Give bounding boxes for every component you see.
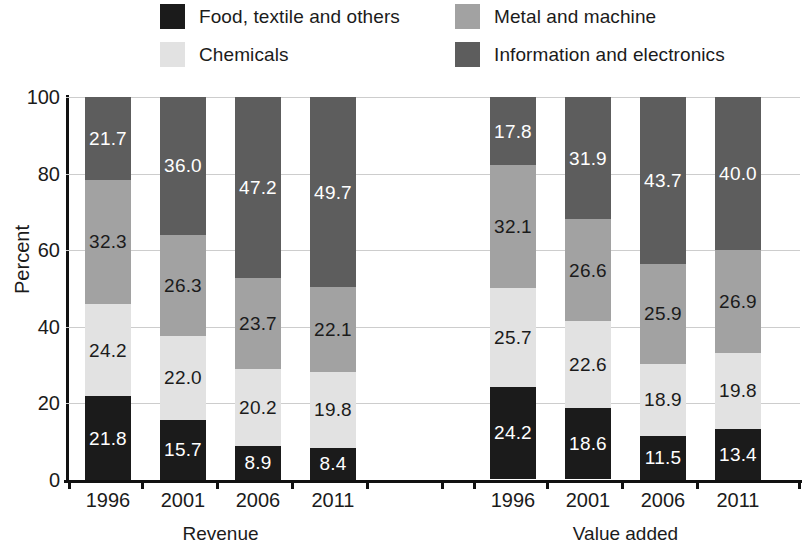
bar-segment: 25.7 [490, 288, 536, 386]
bar-segment-value: 21.7 [89, 129, 127, 148]
bar-segment-value: 23.7 [239, 314, 277, 333]
y-tick-label: 60 [4, 240, 60, 260]
bar-segment-value: 19.8 [314, 400, 352, 419]
bar-segment: 8.4 [310, 448, 356, 480]
bar: 40.026.919.813.4 [715, 97, 761, 480]
bar-segment: 21.7 [85, 97, 131, 180]
bar: 43.725.918.911.5 [640, 97, 686, 480]
bar-segment-value: 11.5 [645, 448, 681, 467]
bar-segment: 22.1 [310, 287, 356, 372]
bar-segment: 24.2 [490, 387, 536, 480]
x-tick-label: 2001 [148, 489, 218, 512]
x-tick [696, 480, 699, 489]
bar-segment: 47.2 [235, 97, 281, 278]
y-tick-label: 80 [4, 164, 60, 184]
bar-segment: 40.0 [715, 97, 761, 250]
bar-segment-value: 22.0 [164, 368, 202, 387]
y-axis-tick-labels: 020406080100 [0, 0, 60, 383]
bar-segment: 22.6 [565, 321, 611, 408]
bar-segment: 15.7 [160, 420, 206, 480]
bar-segment: 43.7 [640, 97, 686, 264]
x-tick [68, 480, 71, 489]
x-tick [546, 480, 549, 489]
bar-segment-value: 24.2 [89, 341, 127, 360]
plot-area: 21.732.324.221.836.026.322.015.747.223.7… [66, 97, 800, 480]
x-tick-label: 2011 [298, 489, 368, 512]
x-tick-label: 1996 [73, 489, 143, 512]
bar-segment-value: 17.8 [494, 122, 532, 141]
y-tick-label: 100 [4, 87, 60, 107]
bar-segment-value: 43.7 [644, 171, 682, 190]
bar-segment-value: 20.2 [239, 398, 277, 417]
bar-segment: 49.7 [310, 97, 356, 287]
x-tick [621, 480, 624, 489]
bar: 17.832.125.724.2 [490, 97, 536, 480]
bar: 49.722.119.88.4 [310, 97, 356, 480]
bar-segment-value: 18.6 [569, 434, 607, 453]
x-tick [473, 480, 476, 489]
bar-segment-value: 40.0 [719, 164, 757, 183]
bar-segment: 23.7 [235, 278, 281, 369]
x-tick [798, 480, 801, 489]
bar-segment-value: 24.2 [494, 423, 532, 442]
bar-segment: 19.8 [715, 353, 761, 429]
bar-segment: 31.9 [565, 97, 611, 219]
x-tick-label: 1996 [478, 489, 548, 512]
x-axis-line [64, 480, 802, 483]
bar-segment-value: 19.8 [719, 381, 757, 400]
bar-segment-value: 25.9 [644, 304, 682, 323]
bar-segment-value: 31.9 [569, 149, 607, 168]
bar-segment-value: 32.3 [89, 232, 127, 251]
bar-segment: 26.6 [565, 219, 611, 321]
bar: 21.732.324.221.8 [85, 97, 131, 480]
bar-segment-value: 22.6 [569, 355, 607, 374]
bar-segment-value: 26.6 [569, 261, 607, 280]
bar: 36.026.322.015.7 [160, 97, 206, 480]
bar-segment: 36.0 [160, 97, 206, 235]
x-tick-label: 2006 [223, 489, 293, 512]
bar-segment-value: 22.1 [314, 320, 352, 339]
bar-segment: 11.5 [640, 436, 686, 480]
bar: 47.223.720.28.9 [235, 97, 281, 480]
bar-segment: 32.1 [490, 165, 536, 288]
bar-segment-value: 32.1 [494, 217, 532, 236]
x-tick [216, 480, 219, 489]
bar-segment: 24.2 [85, 304, 131, 397]
bar-segment: 25.9 [640, 264, 686, 363]
x-tick [366, 480, 369, 489]
bar-segment: 18.9 [640, 364, 686, 436]
bar-segment-value: 25.7 [494, 328, 532, 347]
x-tick [141, 480, 144, 489]
bar-segment-value: 8.9 [244, 453, 271, 472]
bar-segment: 8.9 [235, 446, 281, 480]
bar-segment-value: 26.9 [719, 292, 757, 311]
bar-segment-value: 26.3 [164, 276, 202, 295]
bar-segment-value: 47.2 [239, 178, 277, 197]
stacked-bar-chart: Percent 020406080100 21.732.324.221.836.… [0, 0, 808, 557]
bar-segment: 21.8 [85, 396, 131, 479]
bar-segment: 22.0 [160, 336, 206, 420]
bar-segment: 17.8 [490, 97, 536, 165]
bar-segment-value: 36.0 [164, 156, 202, 175]
bar-segment-value: 49.7 [314, 183, 352, 202]
bar-segment: 26.3 [160, 235, 206, 336]
x-tick [441, 480, 444, 489]
x-tick-label: 2001 [553, 489, 623, 512]
x-tick-label: 2006 [628, 489, 698, 512]
x-group-label: Revenue [121, 523, 321, 545]
bar-segment-value: 15.7 [164, 440, 202, 459]
bar-segment: 19.8 [310, 372, 356, 448]
bar-segment: 20.2 [235, 369, 281, 446]
x-tick-label: 2011 [703, 489, 773, 512]
x-tick [291, 480, 294, 489]
bar-segment: 13.4 [715, 429, 761, 480]
y-tick-label: 20 [4, 393, 60, 413]
bar-segment-value: 13.4 [719, 445, 757, 464]
bar-segment: 32.3 [85, 180, 131, 304]
bar-segment: 26.9 [715, 250, 761, 353]
y-tick-label: 0 [4, 470, 60, 490]
bar-segment-value: 8.4 [319, 454, 346, 473]
y-tick-label: 40 [4, 317, 60, 337]
x-group-label: Value added [526, 523, 726, 545]
bar-segment-value: 18.9 [644, 390, 682, 409]
